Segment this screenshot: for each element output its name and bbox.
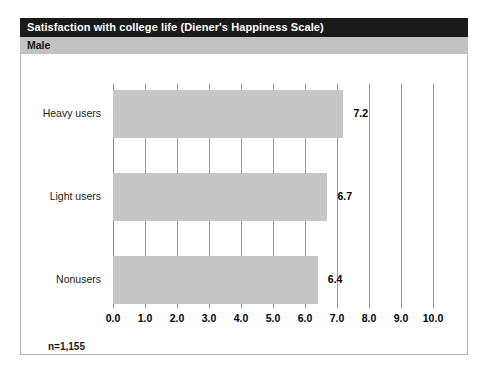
chart-title-bar: Satisfaction with college life (Diener's…	[20, 18, 468, 37]
bar-chart: n=1,155 0.01.02.03.04.05.06.07.08.09.010…	[21, 54, 469, 355]
category-label: Nonusers	[56, 273, 101, 285]
bar-value-label: 6.4	[328, 273, 343, 285]
category-label: Light users	[50, 190, 101, 202]
x-axis-tick-label: 1.0	[138, 312, 153, 324]
x-axis-tick-label: 10.0	[423, 312, 443, 324]
x-axis-tick-label: 8.0	[362, 312, 377, 324]
plot-frame: n=1,155 0.01.02.03.04.05.06.07.08.09.010…	[20, 54, 468, 355]
x-axis-tick-label: 3.0	[202, 312, 217, 324]
x-axis-tick-label: 7.0	[330, 312, 345, 324]
x-axis-tick-label: 4.0	[234, 312, 249, 324]
bar	[113, 173, 327, 221]
x-axis-tick-label: 6.0	[298, 312, 313, 324]
bar-value-label: 6.7	[337, 190, 352, 202]
page-title: Satisfaction with college life (Diener's…	[27, 21, 324, 33]
gridline-8.0	[369, 84, 370, 308]
group-label: Male	[27, 39, 50, 51]
chart-figure: Satisfaction with college life (Diener's…	[20, 18, 468, 355]
x-axis-tick-label: 5.0	[266, 312, 281, 324]
category-label: Heavy users	[43, 107, 101, 119]
gridline-9.0	[401, 84, 402, 308]
bar-value-label: 7.2	[353, 107, 368, 119]
chart-group-band: Male	[20, 37, 468, 54]
sample-size-annotation: n=1,155	[48, 341, 85, 352]
x-axis-tick-label: 2.0	[170, 312, 185, 324]
x-axis-tick-label: 0.0	[106, 312, 121, 324]
x-axis-tick-label: 9.0	[394, 312, 409, 324]
bar	[113, 256, 318, 304]
bar	[113, 90, 343, 138]
gridline-10.0	[433, 84, 434, 308]
